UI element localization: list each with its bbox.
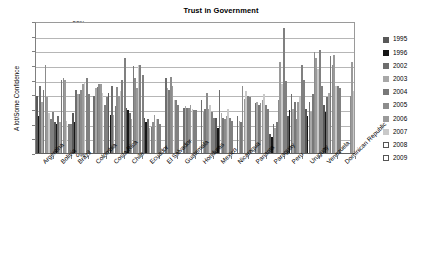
bar-group — [251, 23, 269, 153]
chart-title: Trust in Government — [0, 6, 442, 15]
legend-item[interactable]: 1995 — [383, 33, 442, 46]
bar-group — [341, 23, 355, 153]
legend-label: 2004 — [393, 89, 407, 95]
bar-group — [269, 23, 287, 153]
legend-item[interactable]: 2006 — [383, 112, 442, 125]
legend-label: 2006 — [393, 116, 407, 122]
bar-group — [305, 23, 323, 153]
legend-item[interactable]: 2004 — [383, 86, 442, 99]
bar-group — [90, 23, 108, 153]
plot-area-wrapper — [35, 22, 355, 154]
bar-group — [72, 23, 90, 153]
legend-item[interactable]: 2002 — [383, 59, 442, 72]
legend-swatch — [383, 37, 389, 43]
chart-legend: 1995199620022003200420052006200720082009 — [383, 33, 442, 165]
legend-label: 2003 — [393, 76, 407, 82]
legend-item[interactable]: 1996 — [383, 46, 442, 59]
plot-area — [35, 22, 355, 154]
legend-item[interactable]: 2007 — [383, 125, 442, 138]
legend-item[interactable]: 2008 — [383, 139, 442, 152]
bar-group — [36, 23, 54, 153]
legend-swatch — [383, 155, 389, 161]
bar-group — [108, 23, 126, 153]
legend-label: 2005 — [393, 102, 407, 108]
legend-item[interactable]: 2003 — [383, 73, 442, 86]
legend-swatch — [383, 142, 389, 148]
legend-item[interactable]: 2005 — [383, 99, 442, 112]
bar-group — [126, 23, 144, 153]
legend-label: 2009 — [393, 155, 407, 161]
bar-group — [233, 23, 251, 153]
bar-groups — [36, 23, 354, 153]
legend-swatch — [383, 63, 389, 69]
chart-container: Trust in Government A lot/Some Confidenc… — [0, 0, 442, 265]
bar-group — [144, 23, 162, 153]
legend-label: 1995 — [393, 36, 407, 42]
bar-group — [197, 23, 215, 153]
legend-label: 1996 — [393, 50, 407, 56]
legend-swatch — [383, 116, 389, 122]
y-axis-label: A lot/Some Confidence — [13, 39, 20, 159]
bar-group — [162, 23, 180, 153]
bar-group — [323, 23, 341, 153]
x-axis-labels: ArgentinaBoliviaBrazilColombiaCosta Rica… — [35, 156, 355, 261]
legend-swatch — [383, 89, 389, 95]
legend-label: 2008 — [393, 142, 407, 148]
legend-label: 2007 — [393, 129, 407, 135]
bar-group — [54, 23, 72, 153]
legend-label: 2002 — [393, 63, 407, 69]
bar-group — [180, 23, 198, 153]
legend-item[interactable]: 2009 — [383, 152, 442, 165]
y-axis-tick-mark — [32, 154, 35, 155]
legend-swatch — [383, 103, 389, 109]
legend-swatch — [383, 50, 389, 56]
legend-swatch — [383, 129, 389, 135]
legend-swatch — [383, 76, 389, 82]
bar-group — [287, 23, 305, 153]
bar-group — [215, 23, 233, 153]
